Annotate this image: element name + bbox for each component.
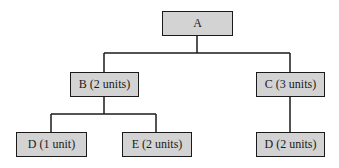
node-c: C (3 units): [256, 72, 325, 97]
tree-diagram: A B (2 units) C (3 units) D (1 unit) E (…: [0, 0, 339, 168]
node-e: E (2 units): [122, 132, 192, 157]
node-d-2-units: D (2 units): [256, 132, 325, 157]
node-a: A: [162, 11, 233, 36]
node-d-1-unit: D (1 unit): [16, 132, 87, 157]
node-b: B (2 units): [70, 72, 139, 97]
